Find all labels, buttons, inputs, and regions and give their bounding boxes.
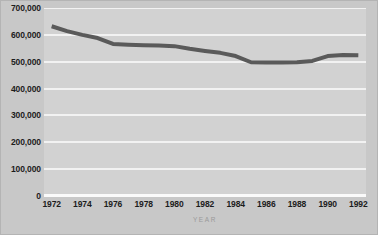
x-axis-baseline: [44, 194, 366, 197]
y-axis-tick-label: 600,000: [1, 31, 41, 40]
y-axis-tick-label: 300,000: [1, 111, 41, 120]
x-axis-tick-label: 1972: [42, 199, 61, 209]
data-line-path: [52, 26, 359, 62]
x-axis-tick-label: 1990: [318, 199, 337, 209]
y-axis-tick-label: 500,000: [1, 58, 41, 67]
data-line-series: [44, 8, 366, 196]
x-axis-title: YEAR: [44, 216, 366, 223]
x-axis-tick-label: 1982: [196, 199, 215, 209]
x-axis-tick-label: 1984: [226, 199, 245, 209]
y-axis-tick-label: 400,000: [1, 85, 41, 94]
x-axis-tick-label: 1986: [257, 199, 276, 209]
y-axis-tick-label: 700,000: [1, 4, 41, 13]
plot-area: [44, 8, 366, 196]
x-axis-tick-label: 1976: [104, 199, 123, 209]
x-axis-tick-label: 1992: [349, 199, 368, 209]
y-axis-tick-label: 0: [1, 192, 41, 201]
y-axis-tick-label: 200,000: [1, 138, 41, 147]
y-axis-tick-label: 100,000: [1, 165, 41, 174]
x-axis-tick-label: 1978: [134, 199, 153, 209]
x-axis-labels: 1972197419761978198019821984198619881990…: [44, 199, 366, 213]
x-axis-tick-label: 1980: [165, 199, 184, 209]
x-axis-tick-label: 1988: [288, 199, 307, 209]
chart-container: 0100,000200,000300,000400,000500,000600,…: [0, 0, 378, 235]
y-axis-labels: 0100,000200,000300,000400,000500,000600,…: [0, 0, 41, 235]
x-axis-tick-label: 1974: [73, 199, 92, 209]
